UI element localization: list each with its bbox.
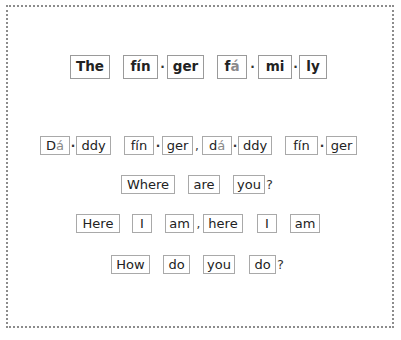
syllable-text: I [265,217,269,230]
syllable-text: are [193,178,214,191]
syllable-box: am [290,214,320,233]
syllable-text: ger [173,60,198,74]
syllable-text: Dá [46,139,64,152]
comma: , [193,136,201,155]
question-mark: ? [265,175,274,194]
syllable-text: How [116,258,144,271]
syllable-box: ddy [76,136,111,155]
syllable-text: ger [331,139,353,152]
syllable-box-ly: ly [299,55,327,79]
question-mark: ? [276,255,285,274]
syllable-box: I [132,214,152,233]
syllable-text: mi [266,60,285,74]
syllable-separator: · [292,55,299,79]
syllable-box-fa: fá [217,55,247,79]
syllable-text: dá [209,139,225,152]
syllable-box: Where [121,175,175,194]
syllable-box: am [165,214,194,233]
syllable-text: ddy [81,139,105,152]
syllable-box: Here [76,214,120,233]
accented-vowel: á [56,138,64,153]
syllable-box: fín [124,136,154,155]
syllable-box: are [188,175,220,194]
syllable-box: you [233,175,265,194]
syllable-box-mi: mi [258,55,292,79]
syllable-text: fín [293,139,309,152]
syllable-text: Here [83,217,114,230]
syllable-text: am [169,217,190,230]
syllable-separator: · [158,55,167,79]
syllable-box-the: The [70,55,110,79]
syllable-box-fin: fín [123,55,158,79]
syllable-text: do [254,258,270,271]
comma: , [194,214,203,233]
syllable-box: How [111,255,150,274]
syllable-box: ger [326,136,357,155]
syllable-box-ger: ger [167,55,204,79]
accented-vowel: á [230,58,239,74]
lyric-line-1: Dá · ddy fín · ger , dá · ddy fín · ger [0,136,401,155]
syllable-text: I [140,217,144,230]
syllable-separator: · [154,136,162,155]
syllable-box: I [257,214,277,233]
syllable-box: here [203,214,243,233]
syllable-separator: · [247,55,258,79]
syllable-text: The [76,60,104,74]
syllable-text: ddy [243,139,267,152]
syllable-box: ger [162,136,193,155]
syllable-text: ger [167,139,189,152]
lyric-line-3: Here I am , here I am [0,214,401,233]
syllable-text: am [295,217,316,230]
syllable-separator: · [318,136,326,155]
syllable-text: here [208,217,237,230]
syllable-text: fín [130,60,150,74]
syllable-text: do [168,258,184,271]
title-line: The fín · ger fá · mi · ly [0,55,401,79]
syllable-box: dá [202,136,232,155]
accented-vowel: á [217,138,225,153]
worksheet-frame [6,5,394,328]
syllable-box: do [163,255,190,274]
syllable-box: Dá [40,136,70,155]
syllable-text: Where [127,178,169,191]
syllable-box: ddy [238,136,272,155]
syllable-box: you [203,255,235,274]
syllable-text: you [207,258,231,271]
syllable-text: you [237,178,261,191]
syllable-text: ly [306,60,319,74]
syllable-box: do [249,255,276,274]
syllable-text: fín [131,139,147,152]
lyric-line-2: Where are you ? [0,175,401,194]
syllable-box: fín [285,136,318,155]
lyric-line-4: How do you do ? [0,255,401,274]
syllable-text: fá [225,60,240,74]
